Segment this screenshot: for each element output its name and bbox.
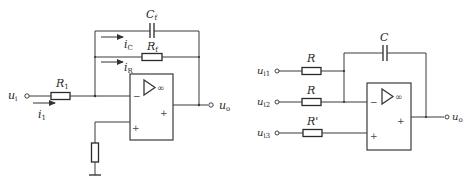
i1-label: i1	[38, 108, 46, 122]
output-sign: +	[160, 108, 168, 118]
r1-label: R1	[55, 77, 69, 91]
noninverting-sign-right: +	[370, 131, 378, 141]
input1-terminal	[275, 69, 279, 73]
input2-label: ui2	[257, 96, 270, 109]
input2-terminal	[275, 100, 279, 104]
r1-right-label: R	[306, 52, 315, 65]
output-terminal	[209, 103, 213, 107]
output-sign-right: +	[397, 116, 405, 126]
output-label-right: uo	[452, 111, 463, 124]
inverting-sign: −	[133, 91, 141, 101]
output-label: uo	[219, 99, 230, 113]
output-terminal-right	[445, 115, 449, 119]
gain-label-right: ∞	[395, 92, 403, 102]
circuit-diagrams: ui R1 i1 Cf Rf iC iR	[0, 0, 469, 189]
resistor-r1	[51, 93, 70, 100]
right-circuit: ui1 R ui2 R ui3 R' C ∞ −	[257, 31, 463, 150]
rf-label: Rf	[146, 40, 159, 54]
resistor-r-1	[302, 68, 321, 75]
r-prime-label: R'	[306, 115, 318, 128]
input3-label: ui3	[257, 127, 270, 140]
ic-label: iC	[124, 38, 133, 52]
cf-label: Cf	[146, 8, 158, 22]
input1-label: ui1	[257, 65, 270, 78]
c-label: C	[380, 31, 389, 44]
resistor-r-prime	[303, 130, 322, 137]
noninverting-sign: +	[132, 123, 140, 133]
inverting-sign-right: −	[370, 97, 378, 107]
input-label: ui	[8, 89, 18, 103]
left-circuit: ui R1 i1 Cf Rf iC iR	[8, 8, 230, 175]
ir-label: iR	[124, 61, 134, 75]
input3-terminal	[275, 131, 279, 135]
resistor-r-2	[302, 99, 321, 106]
resistor-rf	[142, 54, 162, 61]
resistor-balance	[92, 143, 99, 162]
r2-right-label: R	[306, 84, 315, 97]
gain-label: ∞	[157, 83, 165, 93]
input-terminal	[25, 94, 29, 98]
